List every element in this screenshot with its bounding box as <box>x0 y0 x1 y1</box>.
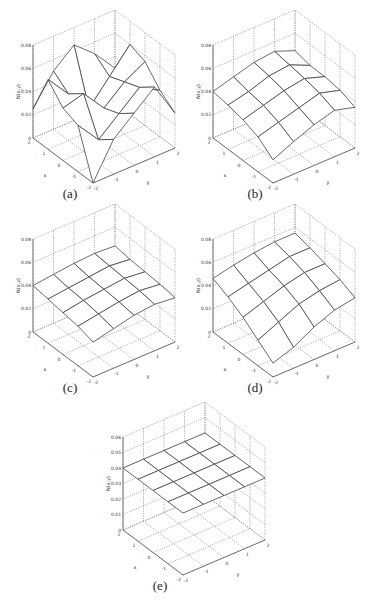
z-tick-label: 0.02 <box>201 112 211 117</box>
surface-mesh <box>33 246 175 342</box>
plot-b: 00.020.040.060.08N(x,y)-2-1012-2-1012xy <box>200 18 365 193</box>
z-tick-label: 0.02 <box>111 497 121 502</box>
y-tick-label: -1 <box>114 177 119 182</box>
base-axes <box>123 530 265 575</box>
x-tick-label: -1 <box>252 368 257 373</box>
y-tick-label: 1 <box>336 354 339 359</box>
y-tick-label: -2 <box>94 186 99 191</box>
y-tick-label: -2 <box>184 578 189 583</box>
surface-plot-e: 00.010.020.030.040.050.06N(x,y)-2-1012-2… <box>110 410 275 585</box>
x-tick-label: 2 <box>208 334 211 339</box>
x-axis-label: x <box>134 564 137 570</box>
surface-plot-d: 00.020.040.060.08N(x,y)-2-1012-2-1012xy <box>200 212 365 387</box>
y-tick-label: -2 <box>94 380 99 385</box>
y-tick-label: 2 <box>357 345 360 350</box>
plot-c: 00.020.040.060.08N(x,y)-2-1012-2-1012xy <box>20 212 185 387</box>
y-tick-label: 2 <box>267 543 270 548</box>
z-tick-label: 0.04 <box>21 89 31 94</box>
z-tick-label: 0.06 <box>201 260 211 265</box>
y-axis-label: y <box>327 373 330 380</box>
z-tick-label: 0.06 <box>21 66 31 71</box>
caption-d: (d) <box>235 380 275 396</box>
z-tick-label: 0.08 <box>201 237 211 242</box>
x-axis-label: x <box>224 366 227 372</box>
z-tick-label: 0.01 <box>111 512 121 517</box>
y-tick-label: -1 <box>294 371 299 376</box>
x-tick-label: 1 <box>223 345 226 350</box>
surface-plot-c: 00.020.040.060.08N(x,y)-2-1012-2-1012xy <box>20 212 185 387</box>
z-axis-label: N(x,y) <box>195 84 202 99</box>
x-tick-label: 2 <box>28 140 31 145</box>
z-tick-label: 0.08 <box>201 43 211 48</box>
x-tick-label: 0 <box>238 357 241 362</box>
z-tick-label: 0.02 <box>21 306 31 311</box>
z-tick-label: 0.04 <box>201 283 211 288</box>
y-tick-label: 2 <box>357 151 360 156</box>
x-tick-label: -1 <box>162 566 167 571</box>
caption-b: (b) <box>235 186 275 202</box>
plot-a: 00.020.040.060.08N(x,y)-2-1012-2-1012xy <box>20 18 185 193</box>
y-tick-label: 1 <box>156 160 159 165</box>
caption-c: (c) <box>50 380 90 396</box>
z-tick-label: 0.06 <box>201 66 211 71</box>
x-tick-label: 0 <box>238 163 241 168</box>
y-axis-label: y <box>237 571 240 578</box>
z-tick-label: 0.04 <box>21 283 31 288</box>
y-tick-label: 0 <box>136 363 139 368</box>
x-axis-label: x <box>224 172 227 178</box>
x-tick-label: 1 <box>133 543 136 548</box>
x-tick-label: 1 <box>43 345 46 350</box>
y-axis-label: y <box>327 179 330 186</box>
y-tick-label: 1 <box>156 354 159 359</box>
y-tick-label: 1 <box>246 552 249 557</box>
surface-mesh <box>123 433 265 513</box>
y-tick-label: 0 <box>136 169 139 174</box>
z-axis-label: N(x,y) <box>15 84 22 99</box>
z-axis-label: N(x,y) <box>105 476 112 491</box>
z-tick-label: 0.04 <box>111 466 121 471</box>
y-axis-label: y <box>147 373 150 380</box>
y-tick-label: -1 <box>204 569 209 574</box>
x-tick-label: 0 <box>58 163 61 168</box>
y-tick-label: 0 <box>316 363 319 368</box>
z-axis-label: N(x,y) <box>15 278 22 293</box>
plot-d: 00.020.040.060.08N(x,y)-2-1012-2-1012xy <box>200 212 365 387</box>
z-tick-label: 0.05 <box>111 450 121 455</box>
x-tick-label: 0 <box>148 555 151 560</box>
z-tick-label: 0.02 <box>201 306 211 311</box>
x-tick-label: -1 <box>252 174 257 179</box>
plot-e: 00.010.020.030.040.050.06N(x,y)-2-1012-2… <box>110 410 275 585</box>
surface-mesh <box>213 51 355 160</box>
y-tick-label: 0 <box>316 169 319 174</box>
y-tick-label: -1 <box>114 371 119 376</box>
y-tick-label: 1 <box>336 160 339 165</box>
y-tick-label: -1 <box>294 177 299 182</box>
x-tick-label: -1 <box>72 368 77 373</box>
surface-plot-a: 00.020.040.060.08N(x,y)-2-1012-2-1012xy <box>20 18 185 193</box>
surface-mesh <box>213 233 355 363</box>
x-tick-label: 2 <box>28 334 31 339</box>
x-tick-label: 1 <box>223 151 226 156</box>
z-tick-label: 0.04 <box>201 89 211 94</box>
z-tick-label: 0.02 <box>21 112 31 117</box>
surface-mesh <box>33 45 175 184</box>
surface-plot-b: 00.020.040.060.08N(x,y)-2-1012-2-1012xy <box>200 18 365 193</box>
caption-e: (e) <box>140 578 180 594</box>
caption-a: (a) <box>50 186 90 202</box>
z-tick-label: 0.06 <box>21 260 31 265</box>
z-tick-label: 0.08 <box>21 43 31 48</box>
base-axes <box>33 332 175 377</box>
x-tick-label: 1 <box>43 151 46 156</box>
y-tick-label: 2 <box>177 151 180 156</box>
y-axis-label: y <box>147 179 150 186</box>
x-tick-label: 0 <box>58 357 61 362</box>
z-tick-label: 0.08 <box>21 237 31 242</box>
y-tick-label: 2 <box>177 345 180 350</box>
x-tick-label: 2 <box>208 140 211 145</box>
z-tick-label: 0.03 <box>111 481 121 486</box>
x-tick-label: -1 <box>72 174 77 179</box>
z-tick-label: 0.06 <box>111 435 121 440</box>
x-axis-label: x <box>44 172 47 178</box>
y-tick-label: 0 <box>226 561 229 566</box>
z-axis-label: N(x,y) <box>195 278 202 293</box>
